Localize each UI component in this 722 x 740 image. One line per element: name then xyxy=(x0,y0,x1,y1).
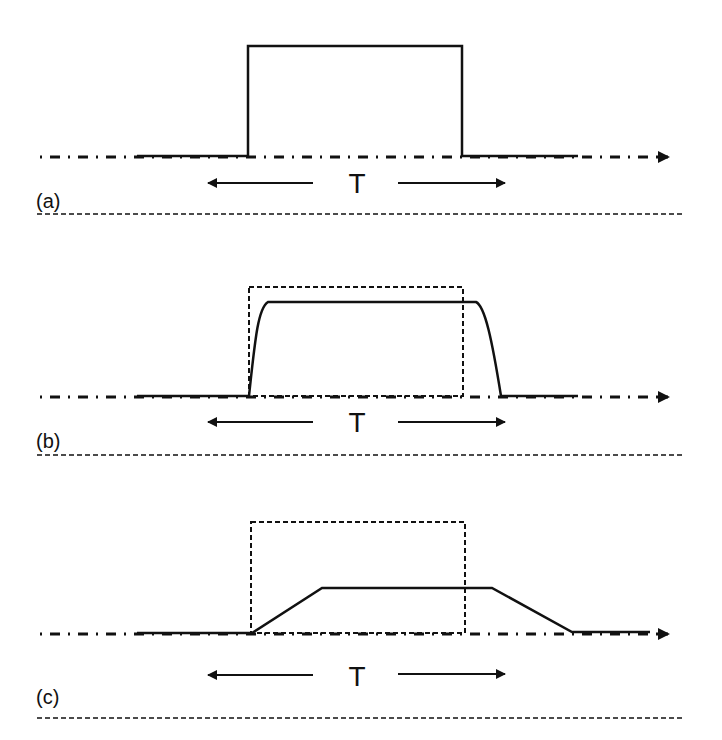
pulse-diagram: T (a) T (b) T (c) xyxy=(0,0,722,740)
reference-ideal-pulse xyxy=(249,287,463,396)
panel-a: T (a) xyxy=(36,46,682,214)
distorted-pulse xyxy=(137,588,650,633)
distorted-pulse xyxy=(137,302,578,396)
duration-label: T xyxy=(348,407,365,438)
panel-label: (c) xyxy=(36,686,59,708)
panel-b: T (b) xyxy=(36,287,682,455)
ideal-pulse xyxy=(137,46,578,156)
duration-label: T xyxy=(348,168,365,199)
panel-c: T (c) xyxy=(36,522,682,718)
reference-ideal-pulse xyxy=(251,522,465,633)
duration-label: T xyxy=(348,661,365,692)
panel-label: (b) xyxy=(36,430,60,452)
panel-label: (a) xyxy=(36,190,60,212)
